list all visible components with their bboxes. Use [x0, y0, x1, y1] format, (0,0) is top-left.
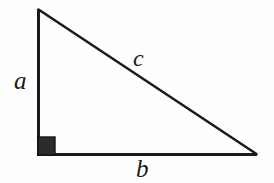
right-angle-marker	[38, 137, 55, 155]
hypotenuse-c-line	[39, 10, 257, 155]
right-triangle-figure: a b c	[0, 0, 274, 183]
label-leg-a: a	[14, 68, 27, 93]
label-leg-b: b	[136, 156, 149, 181]
label-hypotenuse-c: c	[133, 46, 144, 70]
